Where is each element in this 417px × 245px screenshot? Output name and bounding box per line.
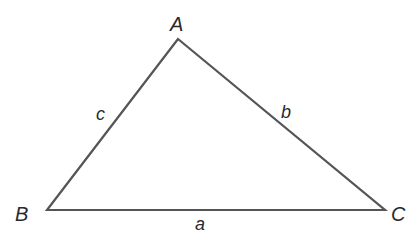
side-label-b: b	[281, 102, 291, 122]
vertex-label-a: A	[169, 13, 183, 35]
triangle-diagram: A B C a b c	[0, 0, 417, 245]
triangle-abc	[47, 39, 385, 210]
vertex-label-b: B	[15, 203, 28, 225]
side-label-c: c	[96, 104, 105, 124]
vertex-label-c: C	[391, 203, 406, 225]
side-label-a: a	[195, 214, 205, 234]
